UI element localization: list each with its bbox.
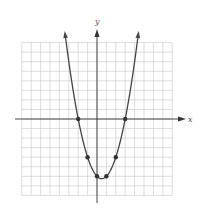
curve-arrow-right-icon (136, 31, 141, 38)
data-point (114, 155, 118, 159)
y-axis-label: y (94, 17, 100, 26)
x-axis-arrow-icon (178, 117, 186, 122)
curve-arrow-left-icon (63, 31, 68, 38)
data-point (85, 155, 89, 159)
data-point (104, 174, 108, 178)
parabola-curve (63, 31, 140, 179)
data-point (123, 117, 127, 121)
data-point (95, 174, 99, 178)
data-point (76, 117, 80, 121)
x-axis-label: x (188, 115, 193, 124)
axes: x y (15, 17, 193, 203)
y-axis-arrow-icon (95, 29, 100, 37)
parabola-chart: x y (0, 0, 200, 213)
